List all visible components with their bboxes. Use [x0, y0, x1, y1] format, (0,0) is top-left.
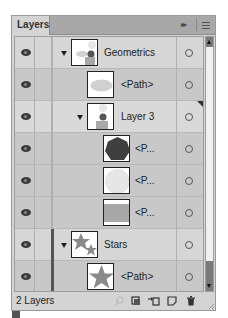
new-sublayer-icon[interactable]: [148, 296, 160, 306]
target-circle-icon[interactable]: [185, 113, 193, 121]
layer-name[interactable]: Geometrics: [104, 37, 155, 69]
path-name[interactable]: <P...: [135, 133, 155, 165]
layers-panel: Layers ▸▸ Geometrics <Pat: [11, 15, 216, 311]
eye-icon[interactable]: [21, 177, 31, 184]
path-thumbnail: [103, 135, 130, 162]
layer-color-bar: [51, 261, 54, 292]
layer-row-path[interactable]: <Path>: [15, 69, 203, 101]
target-circle-icon[interactable]: [185, 209, 193, 217]
panel-footer: 2 Layers: [12, 293, 215, 310]
chevron-down-icon[interactable]: [61, 51, 67, 56]
layer-row-path[interactable]: <P...: [15, 197, 203, 229]
layers-list: Geometrics <Path> Layer 3: [14, 36, 204, 292]
layer-color-bar: [51, 229, 54, 261]
selected-art-indicator: [197, 101, 203, 107]
path-name[interactable]: <P...: [135, 165, 155, 197]
clipping-mask-icon[interactable]: [131, 296, 141, 306]
panel-menu-icon[interactable]: [196, 19, 211, 31]
layer-thumbnail: [71, 39, 98, 66]
layer-row-stars[interactable]: Stars: [15, 229, 203, 261]
search-icon[interactable]: [114, 296, 124, 306]
layer-row-path[interactable]: <Path>: [15, 261, 203, 292]
target-circle-icon[interactable]: [185, 49, 193, 57]
lock-column[interactable]: [34, 165, 35, 197]
layer-color-bar: [51, 101, 53, 133]
layer-row-path[interactable]: <P...: [15, 133, 203, 165]
layer-color-bar: [51, 37, 53, 69]
tab-layers[interactable]: Layers: [12, 16, 50, 35]
layer-color-bar: [51, 197, 53, 229]
target-circle-icon[interactable]: [185, 81, 193, 89]
divider: [176, 101, 177, 133]
layer-name[interactable]: Stars: [104, 229, 127, 261]
path-thumbnail: [103, 167, 130, 194]
divider: [176, 197, 177, 229]
layer-row-path[interactable]: <P...: [15, 165, 203, 197]
eye-icon[interactable]: [21, 49, 31, 56]
eye-icon[interactable]: [21, 113, 31, 120]
lock-column[interactable]: [34, 133, 35, 165]
path-name[interactable]: <P...: [135, 197, 155, 229]
path-thumbnail: [87, 263, 114, 290]
scroll-down-arrow-icon[interactable]: [206, 261, 213, 291]
target-circle-icon[interactable]: [185, 273, 193, 281]
target-circle-icon[interactable]: [185, 241, 193, 249]
scroll-up-arrow-icon[interactable]: [206, 37, 213, 47]
layer-color-bar: [51, 133, 53, 165]
lock-column[interactable]: [34, 197, 35, 229]
vertical-scrollbar[interactable]: [205, 36, 214, 292]
eye-icon[interactable]: [21, 145, 31, 152]
lock-column[interactable]: [34, 37, 35, 69]
divider: [176, 165, 177, 197]
new-layer-icon[interactable]: [167, 296, 177, 306]
path-name[interactable]: <Path>: [121, 69, 153, 101]
divider: [176, 69, 177, 101]
eye-icon[interactable]: [21, 241, 31, 248]
trash-icon[interactable]: [186, 296, 196, 306]
divider: [176, 261, 177, 292]
path-name[interactable]: <Path>: [121, 261, 153, 292]
eye-icon[interactable]: [21, 81, 31, 88]
panel-tab-bar: Layers ▸▸: [12, 16, 215, 35]
eye-icon[interactable]: [21, 273, 31, 280]
resize-grip[interactable]: [208, 303, 214, 309]
layer-thumbnail: [71, 231, 98, 258]
layer-count: 2 Layers: [16, 295, 54, 306]
chevron-down-icon[interactable]: [77, 115, 83, 120]
divider: [176, 133, 177, 165]
decorative-marker: [12, 311, 20, 318]
divider: [176, 229, 177, 261]
layer-thumbnail: [87, 103, 114, 130]
lock-column[interactable]: [34, 229, 35, 261]
lock-column[interactable]: [34, 261, 35, 292]
eye-icon[interactable]: [21, 209, 31, 216]
path-thumbnail: [103, 199, 130, 226]
divider: [176, 37, 177, 69]
layer-color-bar: [51, 165, 53, 197]
chevron-down-icon[interactable]: [61, 243, 67, 248]
layer-row-geometrics[interactable]: Geometrics: [15, 37, 203, 69]
double-chevron-right-icon[interactable]: ▸▸: [181, 20, 191, 30]
layer-name[interactable]: Layer 3: [121, 101, 154, 133]
lock-column[interactable]: [34, 69, 35, 101]
lock-column[interactable]: [34, 101, 35, 133]
layer-row-layer-3[interactable]: Layer 3: [15, 101, 203, 133]
path-thumbnail: [87, 71, 114, 98]
target-circle-icon[interactable]: [185, 177, 193, 185]
layer-color-bar: [51, 69, 53, 101]
target-circle-icon[interactable]: [185, 145, 193, 153]
